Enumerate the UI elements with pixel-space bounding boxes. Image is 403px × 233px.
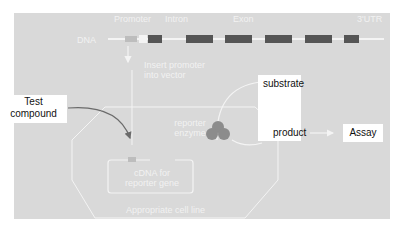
exon-block — [148, 35, 162, 43]
promoter-label: Promoter — [114, 14, 151, 24]
exon-block — [305, 35, 332, 43]
cdna-insert-marker — [128, 157, 136, 162]
dna-label: DNA — [77, 35, 96, 45]
cell-line-label: Appropriate cell line — [126, 205, 205, 215]
product-label: product — [273, 127, 306, 139]
test-compound-box: Test compound — [0, 95, 67, 123]
insert-promoter-label: Insert promoter into vector — [144, 60, 205, 80]
substrate-label: substrate — [263, 78, 304, 90]
exon-block — [186, 35, 213, 43]
promoter-white-block — [139, 35, 147, 43]
intron-label: Intron — [165, 14, 188, 24]
promoter-segment — [125, 36, 137, 42]
exon-block — [344, 35, 359, 43]
exon-block — [225, 35, 252, 43]
reporter-enzyme-label: reporter enzyme — [170, 118, 210, 138]
utr-label: 3'UTR — [357, 14, 382, 24]
test-compound-arrow — [68, 108, 130, 138]
exon-block — [265, 35, 292, 43]
assay-box: Assay — [343, 124, 383, 142]
exon-label: Exon — [233, 14, 254, 24]
cdna-label: cDNA for reporter gene — [125, 168, 179, 188]
